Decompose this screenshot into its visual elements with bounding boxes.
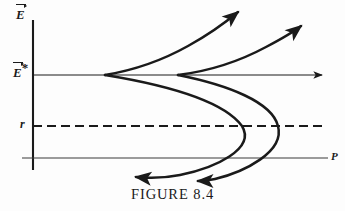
figure-8-4: E E * r P FIGURE 8.4 xyxy=(0,0,345,211)
figure-caption: FIGURE 8.4 xyxy=(0,186,345,203)
trajectory-upper-outer xyxy=(178,26,301,75)
e-star-vector-accent-wrap: E xyxy=(13,66,22,79)
e-vector-accent-wrap: E xyxy=(16,8,25,21)
vector-arrow-accent-icon xyxy=(13,62,23,63)
steady-state-label-text: E xyxy=(13,65,22,80)
phase-diagram-canvas xyxy=(0,0,345,211)
steady-state-label: E * xyxy=(13,66,28,79)
trajectory-lower-outer xyxy=(178,75,279,181)
horizontal-axis-label: P xyxy=(331,151,338,162)
vertical-axis-label: E xyxy=(16,8,25,21)
vertical-axis-label-text: E xyxy=(16,7,25,22)
interest-rate-label: r xyxy=(20,118,25,130)
vector-arrow-accent-icon xyxy=(16,4,26,5)
